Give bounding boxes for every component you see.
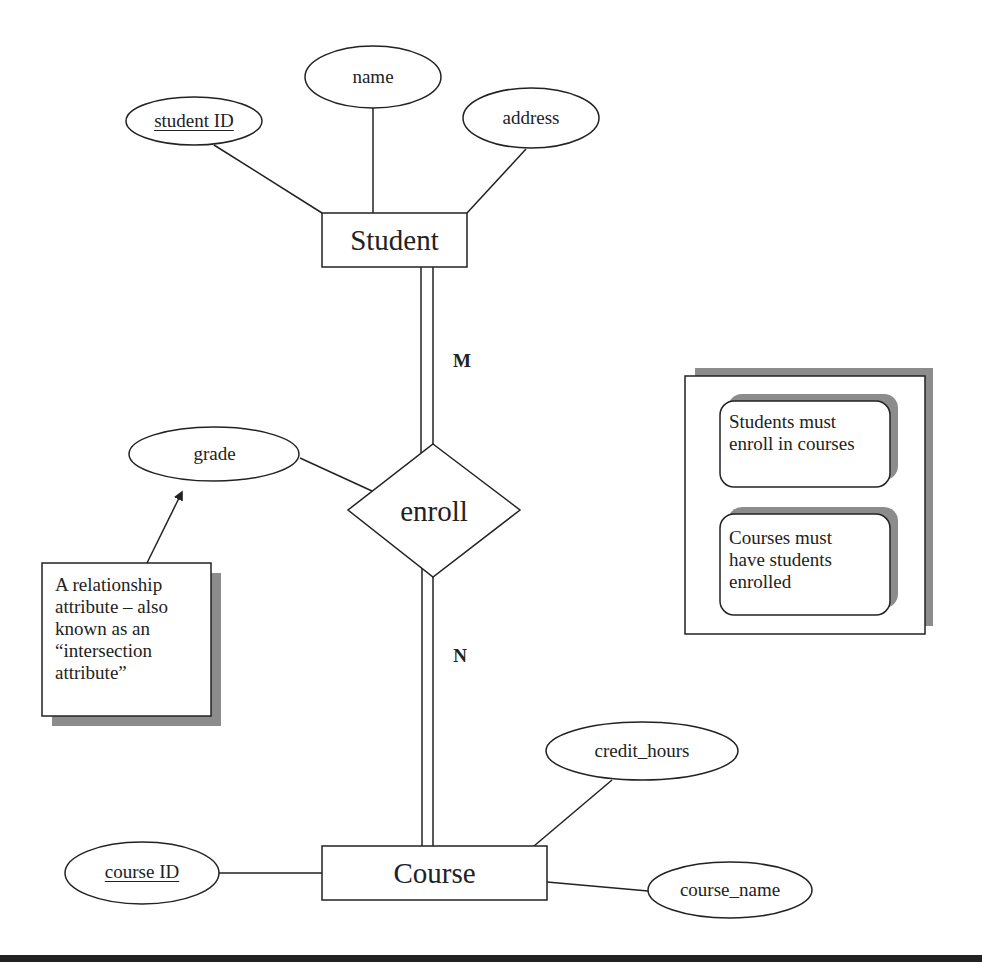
cardinality-student-m: M: [452, 351, 472, 370]
annotation-line-2: attribute – also: [55, 596, 207, 618]
relationship-enroll-label: enroll: [348, 497, 520, 526]
legend-item-2-text: Courses must have students enrolled: [729, 527, 889, 593]
entity-student-label: Student: [322, 226, 467, 255]
legend-item-1-text: Students must enroll in courses: [729, 411, 889, 455]
connector-course-name: [547, 882, 648, 891]
er-diagram-canvas: [0, 0, 982, 971]
legend-item-2-line-2: have students: [729, 549, 889, 571]
attribute-credit-hours-label: credit_hours: [546, 741, 738, 760]
annotation-line-3: known as an: [55, 618, 207, 640]
connector-address: [467, 149, 526, 213]
annotation-line-4: “intersection: [55, 640, 207, 662]
annotation-text: A relationship attribute – also known as…: [55, 574, 207, 684]
attribute-course-name-label: course_name: [648, 880, 812, 899]
legend-item-2-line-1: Courses must: [729, 527, 889, 549]
connector-student-id: [214, 145, 322, 213]
entity-course-label: Course: [322, 859, 547, 888]
connector-grade: [300, 458, 372, 491]
legend-item-1-line-2: enroll in courses: [729, 433, 889, 455]
attribute-course-id-label: course ID: [65, 862, 219, 881]
annotation-arrow: [147, 494, 181, 563]
cardinality-course-n: N: [450, 646, 470, 665]
legend-item-2-line-3: enrolled: [729, 571, 889, 593]
attribute-name-label: name: [305, 67, 441, 86]
attribute-grade-label: grade: [129, 444, 300, 463]
attribute-student-id-label: student ID: [126, 111, 262, 130]
annotation-line-5: attribute”: [55, 662, 207, 684]
annotation-line-1: A relationship: [55, 574, 207, 596]
legend-item-1-line-1: Students must: [729, 411, 889, 433]
attribute-address-label: address: [463, 108, 599, 127]
bottom-rule: [0, 955, 982, 962]
connector-credit-hours: [534, 780, 612, 846]
